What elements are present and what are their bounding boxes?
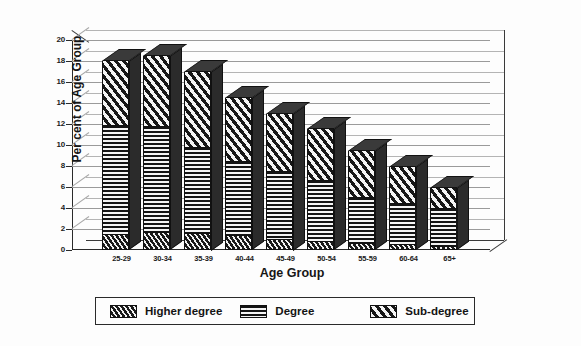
bar-group-60-64[interactable] [389,167,416,250]
bar-side-face [334,121,346,250]
legend-items-container: Higher degreeDegreeSub-degree [96,298,474,324]
bar-group-35-39[interactable] [184,72,211,251]
y-tick-label: 10 [57,141,66,149]
segment-higher-degree[interactable] [349,243,374,249]
bar-front-face [348,151,375,250]
bar-front-face [102,61,129,250]
y-tick-mark [66,145,72,146]
bar-front-face [225,98,252,250]
legend-label: Sub-degree [405,305,468,317]
bar-group-40-44[interactable] [225,98,252,250]
x-tick-label: 35-39 [184,254,224,263]
segment-higher-degree[interactable] [431,246,456,249]
y-tick-label: 18 [57,57,66,65]
segment-degree[interactable] [103,125,128,234]
bar-group-55-59[interactable] [348,151,375,250]
y-tick-mark [66,40,72,41]
segment-degree[interactable] [267,171,292,238]
legend-label: Higher degree [145,305,222,317]
x-tick-label: 30-34 [143,254,183,263]
bar-front-face [143,56,170,250]
y-axis: Per cent of Age Group 20181614121086420 [44,30,74,262]
legend-label: Degree [275,305,314,317]
x-tick-label: 25-29 [102,254,142,263]
bar-side-face [129,53,141,250]
chart-page: Per cent of Age Group 20181614121086420 … [0,0,581,346]
bar-group-30-34[interactable] [143,56,170,250]
bar-side-face [416,159,428,250]
segment-higher-degree[interactable] [226,235,251,249]
y-tick-label: 6 [61,183,65,191]
bar-group-45-49[interactable] [266,114,293,251]
segment-higher-degree[interactable] [308,241,333,249]
segment-sub-degree[interactable] [185,71,210,148]
segment-degree[interactable] [431,208,456,246]
segment-sub-degree[interactable] [226,97,251,161]
x-tick-label: 50-54 [307,254,347,263]
segment-sub-degree[interactable] [349,150,374,196]
y-tick-mark [66,82,72,83]
chart-legend: Higher degreeDegreeSub-degree [95,297,475,325]
bar-side-face [252,89,264,250]
segment-degree[interactable] [144,126,169,232]
segment-sub-degree[interactable] [267,113,292,172]
segment-higher-degree[interactable] [267,239,292,250]
y-tick-label: 0 [61,246,65,254]
bar-side-face [293,105,305,250]
segment-sub-degree[interactable] [144,55,169,126]
bar-front-face [389,167,416,250]
y-tick-label: 8 [61,162,65,170]
x-tick-label: 55-59 [348,254,388,263]
y-tick-label: 4 [61,204,65,212]
bar-front-face [307,129,334,250]
gridline-rear [86,30,504,31]
segment-degree[interactable] [226,161,251,236]
x-tick-label: 40-44 [225,254,265,263]
y-tick-mark [66,166,72,167]
wide-diagonal-hatch-swatch [370,305,397,318]
segment-degree[interactable] [308,180,333,241]
segment-sub-degree[interactable] [103,60,128,125]
segment-degree[interactable] [390,203,415,244]
segment-higher-degree[interactable] [144,232,169,249]
x-tick-label: 60-64 [389,254,429,263]
y-tick-mark [66,208,72,209]
segment-higher-degree[interactable] [103,234,128,249]
y-tick-mark [66,229,72,230]
x-axis-title: Age Group [192,266,392,280]
x-tick-label: 65+ [430,254,470,263]
dense-diagonal-hatch-swatch [110,305,137,318]
bars-layer [72,40,490,250]
segment-sub-degree[interactable] [390,166,415,203]
bar-group-65+[interactable] [430,188,457,250]
bar-front-face [430,188,457,250]
bar-group-25-29[interactable] [102,61,129,250]
segment-higher-degree[interactable] [185,233,210,249]
segment-sub-degree[interactable] [308,128,333,179]
bar-front-face [184,72,211,251]
legend-item-degree[interactable]: Degree [240,305,314,318]
frame-right-rear-edge [504,30,505,240]
y-tick-mark [66,124,72,125]
y-tick-mark [66,187,72,188]
legend-item-sub-degree[interactable]: Sub-degree [370,305,468,318]
y-tick-label: 2 [61,225,65,233]
x-tick-label: 45-49 [266,254,306,263]
bar-front-face [266,114,293,251]
bar-group-50-54[interactable] [307,129,334,250]
y-tick-label: 16 [57,78,66,86]
bar-side-face [211,63,223,250]
bar-side-face [170,47,182,250]
segment-higher-degree[interactable] [390,244,415,249]
y-tick-label: 12 [57,120,66,128]
bar-side-face [375,143,387,250]
segment-sub-degree[interactable] [431,187,456,208]
y-tick-mark [66,103,72,104]
segment-degree[interactable] [349,197,374,243]
legend-item-higher-degree[interactable]: Higher degree [110,305,222,318]
segment-degree[interactable] [185,147,210,233]
horizontal-lines-swatch [240,305,267,318]
y-tick-label: 14 [57,99,66,107]
y-axis-title: Per cent of Age Group [70,4,84,194]
y-tick-mark [66,61,72,62]
